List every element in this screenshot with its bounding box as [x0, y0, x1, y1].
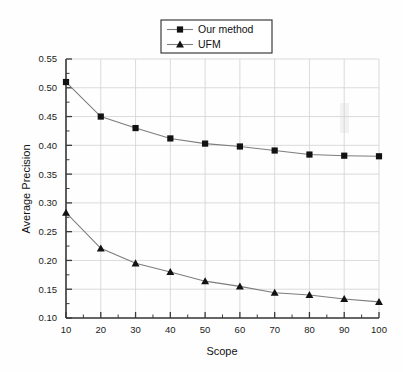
data-point-marker-square	[63, 79, 69, 85]
y-tick-label: 0.55	[39, 53, 58, 64]
y-tick-label: 0.10	[39, 312, 58, 323]
data-point-marker-square	[177, 26, 183, 32]
line-chart: 0.100.150.200.250.300.350.400.450.500.55…	[0, 0, 403, 372]
x-tick-label: 60	[235, 324, 246, 335]
x-tick-label: 100	[371, 324, 387, 335]
data-point-marker-square	[167, 135, 173, 141]
x-tick-label: 30	[130, 324, 141, 335]
chart-figure: 0.100.150.200.250.300.350.400.450.500.55…	[0, 0, 403, 372]
legend-label: UFM	[198, 38, 221, 50]
chart-legend: Our methodUFM	[161, 20, 272, 53]
y-tick-label: 0.25	[39, 226, 58, 237]
x-tick-label: 50	[200, 324, 211, 335]
y-tick-label: 0.15	[39, 284, 58, 295]
y-tick-label: 0.35	[39, 169, 58, 180]
data-point-marker-square	[98, 113, 104, 119]
y-axis-title: Average Precision	[20, 144, 32, 233]
data-point-marker-square	[341, 153, 347, 159]
y-tick-label: 0.40	[39, 140, 58, 151]
y-tick-label: 0.45	[39, 111, 58, 122]
y-tick-label: 0.20	[39, 255, 58, 266]
x-tick-label: 20	[95, 324, 106, 335]
data-point-marker-square	[132, 125, 138, 131]
x-tick-label: 10	[61, 324, 72, 335]
data-point-marker-square	[306, 151, 312, 157]
x-tick-label: 90	[339, 324, 350, 335]
x-tick-label: 70	[269, 324, 280, 335]
data-point-marker-square	[272, 147, 278, 153]
data-point-marker-square	[237, 143, 243, 149]
data-point-marker-square	[376, 153, 382, 159]
x-axis-title: Scope	[206, 345, 237, 357]
y-tick-label: 0.30	[39, 197, 58, 208]
x-tick-label: 40	[165, 324, 176, 335]
data-point-marker-square	[202, 141, 208, 147]
figure-background	[0, 0, 403, 372]
y-tick-label: 0.50	[39, 82, 58, 93]
legend-label: Our method	[198, 23, 254, 35]
x-tick-label: 80	[304, 324, 315, 335]
